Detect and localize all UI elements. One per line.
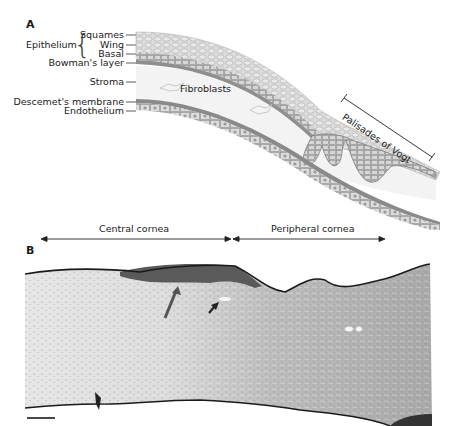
cornea-diagram — [0, 0, 455, 230]
central-cornea-label: Central cornea — [99, 224, 169, 234]
epithelium-band — [120, 264, 262, 288]
label-leader-lines — [126, 35, 136, 111]
peripheral-cornea-label: Peripheral cornea — [271, 224, 355, 234]
fibroblasts-label: Fibroblasts — [180, 84, 231, 94]
short-arrow-marker — [209, 302, 219, 313]
long-arrow-marker — [165, 286, 181, 318]
panel-b-label: B — [26, 244, 34, 257]
